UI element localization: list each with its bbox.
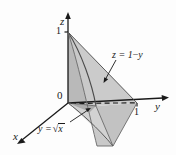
solid-diagram-svg	[0, 0, 176, 155]
origin-label: 0	[57, 90, 63, 101]
plane-equation-var: y	[138, 49, 142, 60]
plane-equation-lhs: z = 1	[112, 49, 133, 60]
curve-equation-radicand: x	[58, 123, 62, 134]
z-tick-label-1: 1	[56, 26, 61, 36]
y-axis-arrowhead	[162, 95, 169, 101]
curve-equation-lhs: y =	[38, 123, 52, 134]
plane-equation-label: z = 1−y	[112, 50, 143, 60]
x-axis-line	[22, 103, 68, 140]
sqrt-icon: √x	[52, 123, 63, 134]
y-axis-label: y	[155, 101, 160, 112]
z-axis-arrowhead	[65, 12, 71, 19]
curve-equation-label: y =√x	[38, 124, 63, 134]
y-tick-label-1: 1	[134, 107, 139, 117]
figure-canvas: z y x 1 1 0 z = 1−y y =√x	[0, 0, 176, 155]
x-axis-label: x	[13, 131, 18, 142]
